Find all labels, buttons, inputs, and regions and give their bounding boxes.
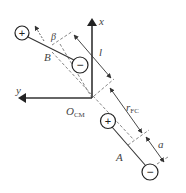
dashed-axis-line (52, 52, 134, 140)
dipole-a-negative-symbol: − (146, 165, 153, 179)
dashed-perp-l-bottom (94, 79, 114, 96)
rfc-label: rFC (126, 101, 139, 115)
dipole-diagram: + − B β x y OCM l rFC a + − A (0, 0, 186, 193)
dipole-b-label: B (44, 51, 51, 63)
dipole-a: + − A (101, 114, 159, 181)
dipole-b-negative-symbol: − (76, 58, 83, 72)
dipole-a-label: A (115, 151, 123, 163)
dipole-b-positive-symbol: + (19, 27, 25, 39)
origin-label: OCM (66, 105, 86, 119)
beta-arrow (35, 26, 44, 41)
beta-label: β (50, 31, 56, 42)
rfc-label-sub: FC (130, 107, 139, 115)
x-axis-label: x (98, 15, 104, 27)
origin-label-sub: CM (74, 111, 86, 119)
dipole-a-positive-symbol: + (105, 115, 111, 127)
origin-label-main: O (66, 105, 74, 117)
a-label: a (158, 138, 164, 150)
l-label: l (99, 46, 102, 58)
y-axis-label: y (15, 84, 21, 96)
